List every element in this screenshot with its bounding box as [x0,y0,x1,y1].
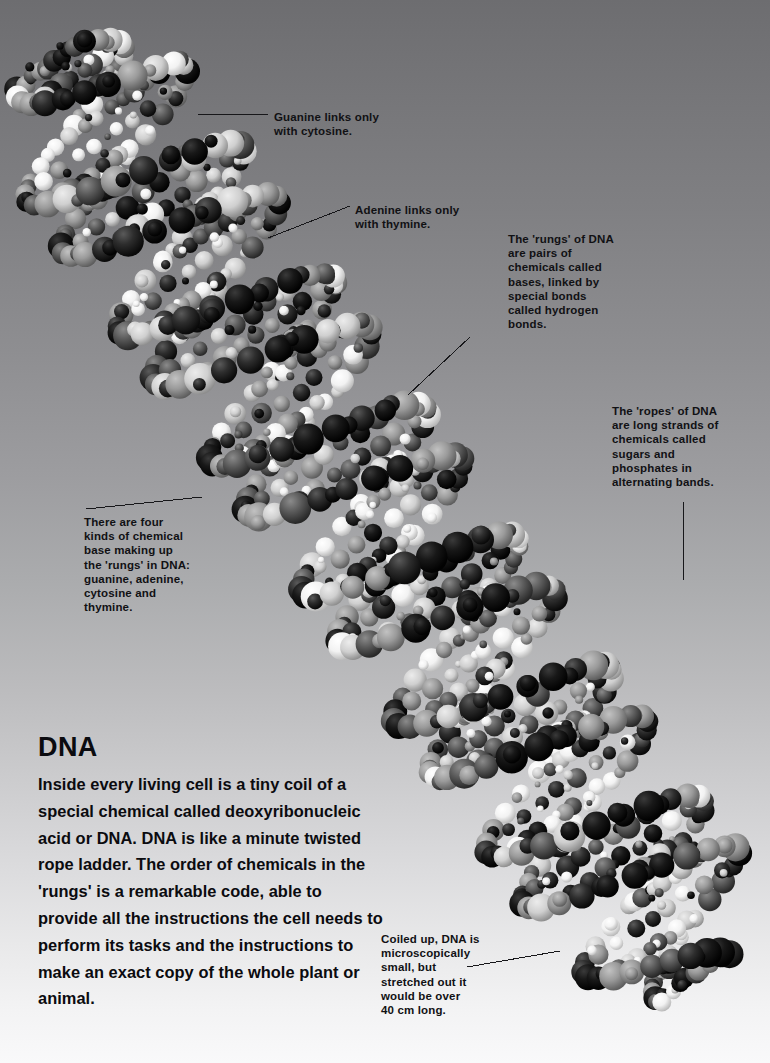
body-paragraph: Inside every living cell is a tiny coil … [38,771,383,1012]
callout-ropes: The 'ropes' of DNA are long strands of c… [612,404,732,489]
callout-adenine: Adenine links only with thymine. [355,203,475,231]
callout-coiled-up: Coiled up, DNA is microscopically small,… [381,932,499,1017]
callout-rungs: The 'rungs' of DNA are pairs of chemical… [508,232,618,331]
callout-four-bases: There are four kinds of chemical base ma… [84,515,202,614]
callout-guanine: Guanine links only with cytosine. [274,110,394,138]
leader-line-adenine [268,206,350,238]
leader-line-four-bases [86,497,202,509]
main-text-block: DNA Inside every living cell is a tiny c… [38,732,383,1012]
leader-line-rungs [408,337,470,395]
page-title: DNA [38,732,383,762]
dna-page: Guanine links only with cytosine. Adenin… [0,0,770,1063]
